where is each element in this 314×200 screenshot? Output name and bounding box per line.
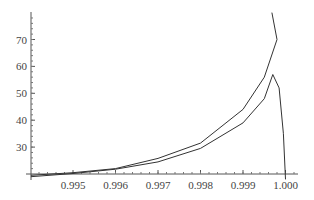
x-tick-label: 0.998 [188,179,213,191]
x-tick-label: 0.996 [103,179,128,191]
chart: 30405060700.9950.9960.9970.9980.9991.000 [0,0,314,200]
series-line-2 [31,75,286,180]
x-tick-label: 1.000 [273,179,298,191]
y-tick-label: 60 [16,60,28,72]
y-tick-label: 70 [16,34,28,46]
series-line-1 [31,13,277,176]
x-tick-label: 0.995 [61,179,86,191]
x-tick-label: 0.997 [146,179,171,191]
y-tick-label: 30 [16,141,28,153]
plot-area: 30405060700.9950.9960.9970.9980.9991.000 [0,0,314,200]
x-tick-label: 0.999 [231,179,256,191]
y-tick-label: 40 [16,114,28,126]
y-tick-label: 50 [16,87,28,99]
